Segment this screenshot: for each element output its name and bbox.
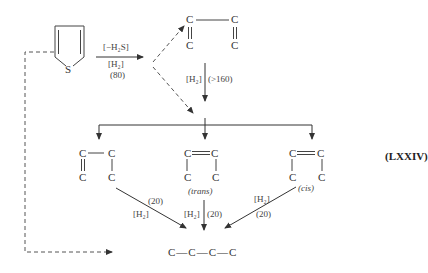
hydrogenation-arrow-1-butene bbox=[116, 188, 186, 228]
trans-atom-2: C bbox=[211, 148, 218, 159]
1-butene-atom-1: C bbox=[79, 148, 86, 159]
cis-atom-1: C bbox=[289, 148, 296, 159]
trans-atom-3: C bbox=[184, 172, 191, 183]
step1-reagent-h2s: [−H₂S] bbox=[103, 43, 129, 52]
step2-reagent: [H₂] bbox=[186, 75, 202, 84]
butadiene-atom-4: C bbox=[231, 40, 238, 51]
reference-label: (LXXIV) bbox=[385, 151, 428, 162]
cis-atom-2: C bbox=[317, 148, 324, 159]
1-butene-atom-4: C bbox=[108, 172, 115, 183]
1-butene-atom-3: C bbox=[79, 172, 86, 183]
step2-condition: (>160) bbox=[208, 75, 233, 84]
1-butene-atom-2: C bbox=[108, 148, 115, 159]
thiophene-sulfur: S bbox=[65, 64, 71, 75]
cis-label: (cis) bbox=[298, 184, 314, 193]
butadiene-atom-2: C bbox=[231, 14, 238, 25]
dashed-to-butadiene bbox=[153, 26, 184, 62]
h2-reagent-cis: [H₂] bbox=[254, 195, 270, 204]
butadiene-atom-1: C bbox=[186, 14, 193, 25]
distribution-bar bbox=[99, 118, 312, 139]
thiophene-ring bbox=[55, 26, 84, 66]
h2-reagent-1-butene: [H₂] bbox=[133, 210, 149, 219]
trans-atom-4: C bbox=[212, 172, 219, 183]
cis-atom-3: C bbox=[289, 172, 296, 183]
product-butane: C—C—C—C bbox=[168, 247, 237, 258]
h2-condition-1-butene: (20) bbox=[148, 197, 163, 206]
step1-reagent-h2: [H₂] bbox=[108, 60, 124, 69]
h2-condition-trans: (20) bbox=[207, 210, 222, 219]
h2-condition-cis: (20) bbox=[256, 210, 271, 219]
cis-atom-4: C bbox=[318, 172, 325, 183]
step1-condition: (80) bbox=[110, 71, 125, 80]
trans-atom-1: C bbox=[184, 148, 191, 159]
h2-reagent-trans: [H₂] bbox=[184, 210, 200, 219]
trans-label: (trans) bbox=[188, 187, 213, 196]
butadiene-bonds bbox=[189, 20, 237, 39]
direct-path-dashed bbox=[25, 52, 112, 252]
butadiene-atom-3: C bbox=[186, 40, 193, 51]
